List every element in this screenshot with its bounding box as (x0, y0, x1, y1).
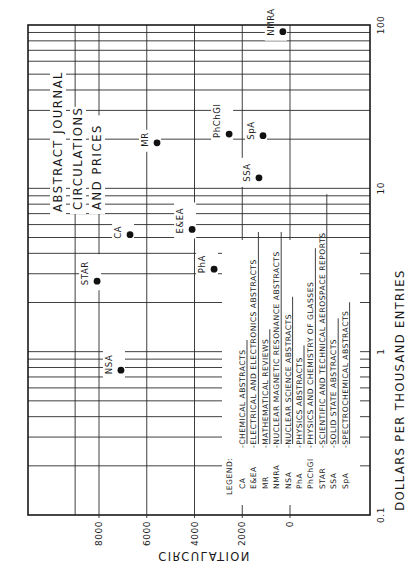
legend-name: -ELECTRICAL AND ELECTRONICS ABSTRACTS (249, 259, 258, 448)
legend-name: -CHEMICAL ABSTRACTS (238, 349, 247, 448)
x-tick-label: 1 (376, 349, 386, 355)
point-label: NMRA (266, 8, 276, 35)
point-label: PhChGl (212, 104, 222, 138)
data-point (189, 226, 196, 233)
legend-name: -NUCLEAR SCIENCE ABSTRACTS (284, 314, 293, 448)
title-line: CIRCULATIONS (71, 106, 85, 210)
title-line: AND PRICES (90, 124, 104, 210)
y-tick-label: 2000 (237, 521, 247, 546)
data-point (226, 131, 233, 138)
legend-abbr: STAR (318, 467, 327, 489)
legend-abbr: PhChGl (306, 458, 315, 489)
legend-name: -SPECTROCHEMICAL ABSTRACTS (341, 311, 350, 448)
y-tick-labels: 02000400060008000 (94, 515, 295, 546)
data-point (279, 28, 286, 35)
x-tick-label: 0.1 (376, 507, 386, 523)
legend-abbr: SpA (341, 472, 350, 489)
y-tick-label: 6000 (142, 521, 152, 546)
legend-abbr: NMRA (272, 464, 281, 489)
data-point (127, 231, 134, 238)
chart-title: ABSTRACT JOURNALCIRCULATIONSAND PRICES (51, 71, 104, 212)
point-label: NSA (104, 355, 114, 375)
legend-abbr: E&EA (249, 466, 258, 489)
legend-abbr: MR (261, 476, 270, 489)
y-tick-label: 8000 (94, 521, 104, 546)
point-label: SSA (242, 163, 252, 182)
data-point (260, 132, 267, 139)
legend-name: -PHYSICS ABSTRACTS (295, 357, 304, 448)
legend-name: -SOLID STATE ABSTRACTS (329, 339, 338, 448)
legend-abbr: NSA (284, 471, 293, 489)
data-point (154, 139, 161, 146)
chart: 0.1110100 02000400060008000 NMRAMRPhChGl… (0, 0, 416, 581)
point-label: SpA (246, 121, 256, 139)
data-point (211, 266, 218, 273)
x-tick-label: 10 (376, 182, 386, 194)
x-tick-labels: 0.1110100 (376, 16, 386, 523)
y-axis-title: CIRCULATION (158, 549, 250, 563)
legend-abbr: PhA (295, 473, 304, 489)
data-point (94, 278, 101, 285)
y-tick-label: 4000 (190, 521, 200, 546)
legend-heading: LEGEND: (225, 458, 234, 495)
point-label: CA (113, 226, 123, 239)
legend-name: -SCIENTIFIC AND TECHNICAL AEROSPACE REPO… (318, 233, 327, 448)
point-label: STAR (80, 261, 90, 285)
point-label: MR (140, 132, 150, 146)
data-point (256, 174, 263, 181)
legend-abbr: SSA (329, 472, 338, 489)
y-tick-label: 0 (285, 521, 295, 527)
data-point (118, 367, 125, 374)
point-label: E&EA (175, 208, 185, 234)
legend-abbr: CA (238, 477, 247, 489)
x-tick-label: 100 (376, 16, 386, 35)
legend-name: -PHYSICS AND CHEMISTRY OF GLASSES (306, 282, 315, 448)
x-axis-title: DOLLARS PER THOUSAND ENTRIES (393, 269, 407, 510)
legend-name: -NUCLEAR MAGNETIC RESONANCE ABSTRACTS (272, 251, 281, 448)
title-line: ABSTRACT JOURNAL (51, 71, 65, 212)
legend-name: -MATHEMATICAL REVIEWS (261, 339, 270, 448)
point-label: PhA (197, 255, 207, 273)
